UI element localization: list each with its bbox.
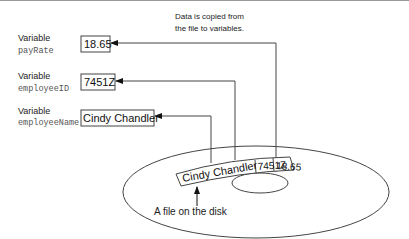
caption-line-2: the file to variables.: [175, 24, 244, 33]
record-field-name: Cindy Chandler: [181, 159, 258, 184]
caption-line-1: Data is copied from: [175, 12, 244, 21]
disk-hub: [232, 173, 288, 193]
variable-name-employeename: employeeName: [18, 118, 79, 128]
file-label: A file on the disk: [154, 206, 228, 217]
payrate-value: 18.65: [84, 38, 112, 50]
variable-label: Variable: [18, 106, 50, 116]
variable-name-employeeid: employeeID: [18, 84, 69, 94]
variable-name-payrate: payRate: [18, 46, 54, 56]
arrow-to-payrate: [111, 43, 276, 172]
variable-label: Variable: [18, 71, 50, 81]
diagram-canvas: Data is copied from the file to variable…: [0, 0, 409, 239]
variable-label: Variable: [18, 33, 50, 43]
employeename-value: Cindy Chandler: [83, 112, 159, 124]
record-field-payrate: 18.65: [276, 160, 302, 173]
diagram: Data is copied from the file to variable…: [0, 0, 409, 239]
employeeid-value: 7451Z: [84, 76, 115, 88]
arrow-to-employeename: [155, 116, 211, 163]
